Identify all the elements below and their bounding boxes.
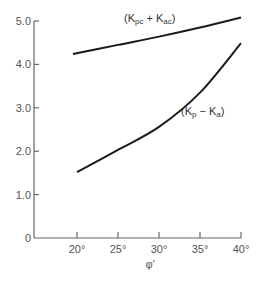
label-part: (K [181, 105, 193, 117]
x-tick-label: 40° [233, 243, 250, 255]
label-sub: ac [163, 17, 171, 26]
label-part: ) [221, 105, 225, 117]
y-tick-label: 1.0 [16, 189, 31, 201]
series-label-kpc-kac: (Kpc + Kac) [124, 12, 175, 26]
chart: 01.02.03.04.05.020°25°30°35°40° φ′ (Kpc … [0, 0, 258, 282]
x-tick-label: 25° [110, 243, 127, 255]
series [73, 18, 241, 173]
axes [34, 21, 241, 238]
y-tick-label: 2.0 [16, 145, 31, 157]
y-tick-label: 5.0 [16, 15, 31, 27]
series-line-1 [77, 43, 241, 172]
x-tick-label: 20° [69, 243, 86, 255]
label-part: ) [172, 12, 176, 24]
x-tick-label: 30° [151, 243, 168, 255]
label-part: (K [124, 12, 136, 24]
y-tick-label: 0 [25, 232, 31, 244]
y-tick-label: 4.0 [16, 58, 31, 70]
ticks: 01.02.03.04.05.020°25°30°35°40° [16, 15, 250, 255]
x-axis-label: φ′ [145, 258, 154, 270]
y-tick-label: 3.0 [16, 102, 31, 114]
x-tick-label: 35° [192, 243, 209, 255]
label-part: + K [143, 12, 164, 24]
series-label-kp-ka: (Kp − Ka) [181, 105, 224, 119]
label-part: − K [196, 105, 217, 117]
label-sub: pc [135, 17, 143, 26]
